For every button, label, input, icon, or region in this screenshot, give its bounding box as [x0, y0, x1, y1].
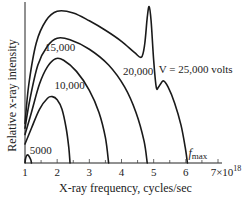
- y-axis-label: Relative x-ray intensity: [5, 39, 19, 152]
- x-tick-label: 4: [119, 166, 125, 178]
- fmax-subscript: max: [192, 151, 208, 161]
- annotation-label: 20,000: [123, 65, 154, 77]
- curve-5000: [25, 155, 31, 163]
- annotation-label: fmax: [188, 146, 207, 161]
- x-tick-labels: 1234567×1018: [22, 164, 241, 178]
- x-tick-label: 1: [22, 166, 28, 178]
- x-tick-label: 2: [54, 166, 60, 178]
- x-tick-exponent: 18: [233, 164, 241, 173]
- annotation-label: 5000: [30, 144, 53, 156]
- x-axis-label: X-ray frequency, cycles/sec: [59, 181, 192, 195]
- xray-spectrum-chart: 1234567×1018 500010,00015,00020,000V = 2…: [0, 0, 252, 200]
- annotation-label: V = 25,000 volts: [159, 63, 233, 75]
- annotation-label: 10,000: [55, 79, 86, 91]
- annotation-label: 15,000: [45, 41, 76, 53]
- curves: [25, 7, 187, 163]
- x-tick-label: 5: [151, 166, 157, 178]
- x-tick-label: 3: [87, 166, 93, 178]
- x-tick-label: 7×1018: [211, 164, 242, 178]
- x-tick-label: 6: [183, 166, 189, 178]
